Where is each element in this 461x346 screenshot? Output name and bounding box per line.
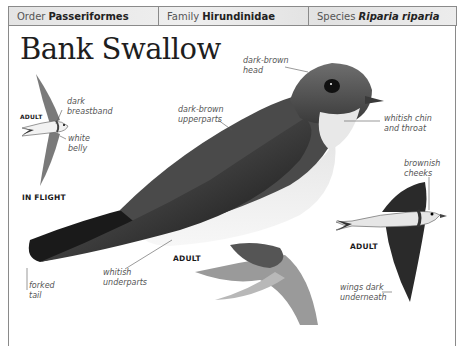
label-whitish-chin-throat: whitish chin and throat <box>384 114 432 134</box>
label-line: and throat <box>384 124 432 134</box>
label-line: wings dark <box>340 283 387 293</box>
label-line: breastband <box>67 107 113 117</box>
label-line: dark-brown <box>178 105 224 115</box>
label-wings-dark-underneath: wings dark underneath <box>340 283 387 303</box>
label-line: whitish chin <box>384 114 432 124</box>
label-line: cheeks <box>404 169 440 179</box>
label-line: brownish <box>404 159 440 169</box>
label-brownish-cheeks: brownish cheeks <box>404 159 440 179</box>
label-white-belly: white belly <box>68 134 90 154</box>
label-line: dark-brown <box>243 56 289 66</box>
label-dark-breastband: dark breastband <box>67 97 113 117</box>
label-line: head <box>243 66 289 76</box>
in-flight-adult-caption: ADULT <box>20 113 42 120</box>
flying-adult-caption: ADULT <box>350 242 378 251</box>
perched-bird-icon <box>29 63 384 262</box>
label-forked-tail: forked tail <box>29 281 55 301</box>
branch-perch-icon <box>195 243 318 325</box>
label-line: underparts <box>103 278 147 288</box>
label-line: forked <box>29 281 55 291</box>
label-line: underneath <box>340 293 387 303</box>
label-line: dark <box>67 97 113 107</box>
label-line: white <box>68 134 90 144</box>
in-flight-bird-icon <box>22 74 68 186</box>
label-line: belly <box>68 144 90 154</box>
label-line: whitish <box>103 268 147 278</box>
label-line: upperparts <box>178 115 224 125</box>
label-line: tail <box>29 291 55 301</box>
label-whitish-underparts: whitish underparts <box>103 268 147 288</box>
label-dark-brown-upperparts: dark-brown upperparts <box>178 105 224 125</box>
label-dark-brown-head: dark-brown head <box>243 56 289 76</box>
perched-adult-caption: ADULT <box>173 254 201 263</box>
in-flight-caption: IN FLIGHT <box>22 193 66 202</box>
